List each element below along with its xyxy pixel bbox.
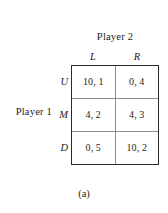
payoff-cell-m-l: 4, 2 xyxy=(72,99,116,131)
payoff-cell-d-l: 0, 5 xyxy=(72,132,116,164)
payoff-matrix-figure: Player 2 L R Player 1 U M D 10, 1 0, 4 4… xyxy=(0,0,168,213)
row-header-u: U xyxy=(52,65,68,98)
column-header-r: R xyxy=(115,51,159,63)
row-player-label: Player 1 xyxy=(2,106,52,118)
table-row: 4, 2 4, 3 xyxy=(72,99,158,132)
row-header-column: U M D xyxy=(52,65,68,165)
payoff-cell-u-l: 10, 1 xyxy=(72,66,116,98)
payoff-matrix-grid: 10, 1 0, 4 4, 2 4, 3 0, 5 10, 2 xyxy=(71,65,159,165)
payoff-cell-m-r: 4, 3 xyxy=(116,99,159,131)
payoff-cell-d-r: 10, 2 xyxy=(116,132,159,164)
figure-caption: (a) xyxy=(0,188,168,200)
column-header-l: L xyxy=(71,51,115,63)
table-row: 0, 5 10, 2 xyxy=(72,132,158,164)
column-header-row: L R xyxy=(71,51,159,63)
payoff-cell-u-r: 0, 4 xyxy=(116,66,159,98)
row-header-m: M xyxy=(52,98,68,131)
table-row: 10, 1 0, 4 xyxy=(72,66,158,99)
column-player-label: Player 2 xyxy=(71,31,159,43)
row-header-d: D xyxy=(52,132,68,165)
